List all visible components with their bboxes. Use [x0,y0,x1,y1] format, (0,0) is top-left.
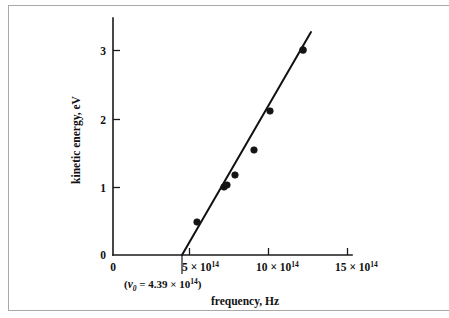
x-tick-5-mantissa: 5 × 10 [182,261,212,273]
x-tick-10-exponent: 14 [291,260,299,269]
data-point [232,172,239,179]
x-axis-ticks: 0 5 × 1014 10 × 1014 15 × 1014 [110,248,378,273]
annotation-close-paren: ) [198,278,202,291]
x-tick-5-exponent: 14 [212,260,220,269]
y-tick-label-3: 3 [100,45,106,57]
x-tick-label-15: 15 × 1014 [335,260,378,273]
y-tick-label-2: 2 [100,114,106,126]
data-point [267,108,274,115]
y-axis-title: kinetic energy, eV [70,95,83,184]
x-tick-label-10: 10 × 1014 [256,260,299,273]
figure-root: 3 2 1 0 0 5 × 1014 10 × 1014 15 × 1014 [0,0,449,318]
linear-fit-line [182,32,311,255]
fit-line-group [182,32,311,255]
x-tick-label-5: 5 × 1014 [182,260,219,273]
data-point [300,47,307,54]
y-tick-label-0: 0 [100,249,106,261]
axes-group [113,18,352,255]
x-tick-15-exponent: 14 [370,260,378,269]
data-point [194,219,201,226]
x-axis-title: frequency, Hz [211,295,279,308]
data-point [251,147,258,154]
y-axis-ticks: 3 2 1 0 [100,45,120,261]
data-point [224,182,231,189]
x-tick-15-mantissa: 15 × 10 [335,261,371,273]
x-tick-10-mantissa: 10 × 10 [256,261,292,273]
x-tick-label-0: 0 [110,261,116,273]
y-tick-label-1: 1 [100,182,106,194]
photoelectric-chart: 3 2 1 0 0 5 × 1014 10 × 1014 15 × 1014 [0,0,449,318]
annotation-equals-value: = 4.39 × 10 [137,278,191,290]
threshold-annotation-label: (ν0 = 4.39 × 1014) [124,277,202,293]
